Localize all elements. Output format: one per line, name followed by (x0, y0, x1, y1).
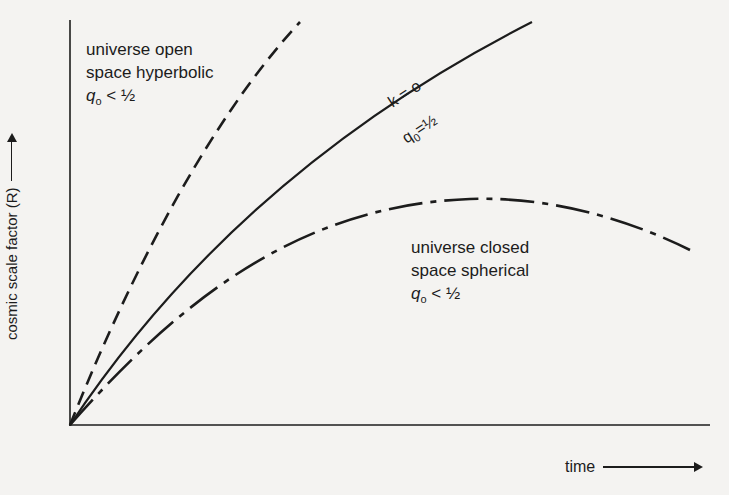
q-relation: < ½ (102, 86, 136, 105)
open-universe-q-condition: qo < ½ (86, 84, 214, 113)
cosmology-scale-factor-diagram: cosmic scale factor (R) universe open sp… (0, 0, 729, 495)
closed-universe-line1: universe closed (411, 236, 529, 259)
closed-universe-q-condition: qo < ½ (411, 282, 529, 311)
x-axis-label-text: time (565, 458, 595, 476)
q-relation: < ½ (427, 284, 461, 303)
closed-universe-line2: space spherical (411, 259, 529, 282)
open-universe-line2: space hyperbolic (86, 61, 214, 84)
closed-universe-annotation: universe closed space spherical qo < ½ (411, 236, 529, 311)
x-axis-label: time (565, 458, 695, 476)
x-axis-arrow-icon (603, 466, 695, 468)
y-axis-arrow-icon (11, 141, 13, 181)
curve-closed-universe (70, 199, 690, 425)
open-universe-annotation: universe open space hyperbolic qo < ½ (86, 38, 214, 113)
y-axis-label-text: cosmic scale factor (R) (3, 187, 20, 340)
open-universe-line1: universe open (86, 38, 214, 61)
y-axis-label: cosmic scale factor (R) (3, 141, 20, 340)
